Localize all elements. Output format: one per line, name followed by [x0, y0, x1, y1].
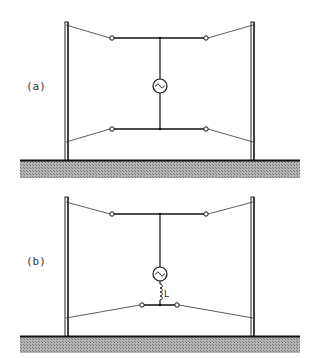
wire-upper-right-b	[208, 202, 253, 214]
insulator-icon	[204, 212, 208, 216]
left-pole-a	[65, 22, 69, 160]
insulator-icon	[140, 303, 144, 307]
wire-lower-right-a	[208, 129, 253, 142]
inductor-label: L	[164, 289, 169, 299]
insulator-icon	[110, 127, 114, 131]
insulator-icon	[175, 303, 179, 307]
insulator-icon	[110, 212, 114, 216]
insulator-icon	[204, 127, 208, 131]
wire-lower-left-a	[66, 129, 110, 142]
wire-upper-right-a	[208, 25, 253, 38]
antenna-diagram: (a)	[0, 0, 314, 358]
panel-b: (b)	[20, 197, 300, 353]
wire-lower-left-b	[66, 305, 140, 318]
right-pole-b	[251, 197, 255, 336]
panel-a-label: (a)	[26, 80, 46, 93]
insulator-icon	[204, 36, 208, 40]
panel-a: (a)	[20, 22, 300, 178]
generator-icon	[153, 267, 167, 281]
wire-lower-right-b	[179, 305, 253, 318]
wire-upper-left-a	[66, 25, 110, 38]
left-pole-b	[65, 197, 69, 336]
generator-icon	[153, 79, 167, 93]
insulator-icon	[110, 36, 114, 40]
right-pole-a	[251, 22, 255, 160]
inductor-icon	[160, 284, 162, 301]
ground-a	[20, 161, 300, 179]
panel-b-label: (b)	[26, 255, 46, 268]
wire-upper-left-b	[66, 202, 110, 214]
ground-b	[20, 337, 300, 354]
